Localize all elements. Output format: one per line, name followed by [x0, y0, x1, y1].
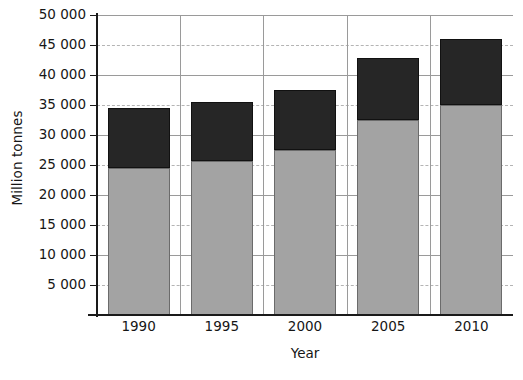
bar-segment-upper-segment	[357, 58, 419, 120]
y-axis-tick-mark	[90, 105, 97, 106]
y-axis-tick-mark	[90, 45, 97, 46]
y-axis-tick-label: 45 000	[4, 38, 86, 52]
gridline-vertical	[347, 15, 348, 315]
bar-segment-upper-segment	[191, 102, 253, 161]
bar-segment-lower-segment	[108, 168, 170, 315]
bar-segment-lower-segment	[191, 161, 253, 315]
y-axis-tick-mark	[90, 195, 97, 196]
y-axis-tick-label: 25 000	[4, 158, 86, 172]
y-axis-tick-mark	[90, 135, 97, 136]
bar-stack	[440, 15, 502, 315]
stacked-bar-chart: Million tonnes Year 5 00010 00015 00020 …	[0, 0, 523, 380]
y-axis-tick-mark	[90, 255, 97, 256]
gridline-vertical	[180, 15, 181, 315]
y-axis-tick-label: 35 000	[4, 98, 86, 112]
bar-stack	[191, 15, 253, 315]
bar-stack	[274, 15, 336, 315]
bar-segment-upper-segment	[440, 39, 502, 105]
x-axis-tick-label: 2000	[265, 320, 345, 334]
y-axis-tick-mark	[90, 75, 97, 76]
bar-segment-lower-segment	[274, 150, 336, 315]
bar-stack	[108, 15, 170, 315]
y-axis-tick-label: 15 000	[4, 218, 86, 232]
y-axis-tick-mark	[90, 225, 97, 226]
y-axis-tick-label: 50 000	[4, 8, 86, 22]
bar-segment-upper-segment	[274, 90, 336, 150]
bar-segment-lower-segment	[440, 105, 502, 315]
y-axis-tick-label: 20 000	[4, 188, 86, 202]
bar-segment-lower-segment	[357, 120, 419, 315]
y-axis-tick-label: 10 000	[4, 248, 86, 262]
plot-area	[97, 15, 513, 315]
y-axis-tick-label: 40 000	[4, 68, 86, 82]
bar-segment-upper-segment	[108, 108, 170, 168]
x-axis-title: Year	[97, 345, 513, 361]
bar-stack	[357, 15, 419, 315]
gridline-vertical	[430, 15, 431, 315]
y-axis-tick-mark	[90, 15, 97, 16]
x-axis-tick-label: 2005	[348, 320, 428, 334]
x-axis-tick-label: 1995	[182, 320, 262, 334]
gridline-vertical	[263, 15, 264, 315]
x-axis-line	[88, 314, 513, 316]
y-axis-tick-mark	[90, 165, 97, 166]
x-axis-tick-label: 1990	[99, 320, 179, 334]
y-axis-tick-label: 5 000	[4, 278, 86, 292]
y-axis-tick-labels: 5 00010 00015 00020 00025 00030 00035 00…	[0, 0, 86, 380]
y-axis-tick-label: 30 000	[4, 128, 86, 142]
x-axis-tick-label: 2010	[431, 320, 511, 334]
y-axis-tick-mark	[90, 285, 97, 286]
